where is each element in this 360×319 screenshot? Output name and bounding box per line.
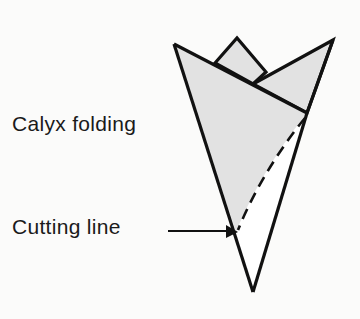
calyx-folding-label: Calyx folding (12, 113, 136, 134)
calyx-fold-diagram (0, 0, 360, 319)
cutting-line-label: Cutting line (12, 216, 121, 237)
